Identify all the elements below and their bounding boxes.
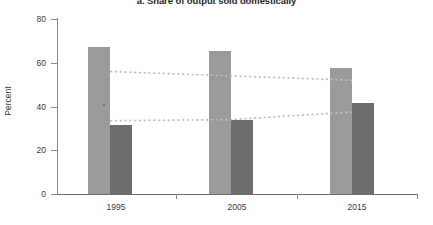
plot-area <box>58 19 418 194</box>
x-tick-label-2015: 2015 <box>327 202 387 212</box>
x-axis-line <box>57 194 418 195</box>
bar-1995-light <box>88 47 110 194</box>
y-tick-20 <box>51 150 57 151</box>
y-tick-label-40: 40 <box>16 102 46 112</box>
bar-2015-dark <box>352 103 374 194</box>
y-tick-label-0: 0 <box>16 189 46 199</box>
y-tick-80 <box>51 19 57 20</box>
chart-title: a. Share of output sold domestically <box>0 0 433 6</box>
y-tick-60 <box>51 63 57 64</box>
y-tick-40 <box>51 107 57 108</box>
bar-2005-dark <box>231 120 253 194</box>
y-tick-label-80: 80 <box>16 14 46 24</box>
y-tick-0 <box>51 194 57 195</box>
bar-2005-light <box>209 51 231 194</box>
x-tick-label-2005: 2005 <box>207 202 267 212</box>
y-tick-label-60: 60 <box>16 58 46 68</box>
upper-dotted-trend-line <box>110 72 352 81</box>
scan-speck-artifact <box>103 104 105 106</box>
x-tick-2 <box>297 194 298 199</box>
y-axis-title: Percent <box>3 71 13 131</box>
x-tick-1 <box>176 194 177 199</box>
chart-screenshot: a. Share of output sold domestically Per… <box>0 0 433 225</box>
x-tick-3 <box>417 194 418 199</box>
x-tick-label-1995: 1995 <box>86 202 146 212</box>
bar-2015-light <box>330 68 352 194</box>
bar-1995-dark <box>110 125 132 194</box>
y-tick-label-20: 20 <box>16 145 46 155</box>
